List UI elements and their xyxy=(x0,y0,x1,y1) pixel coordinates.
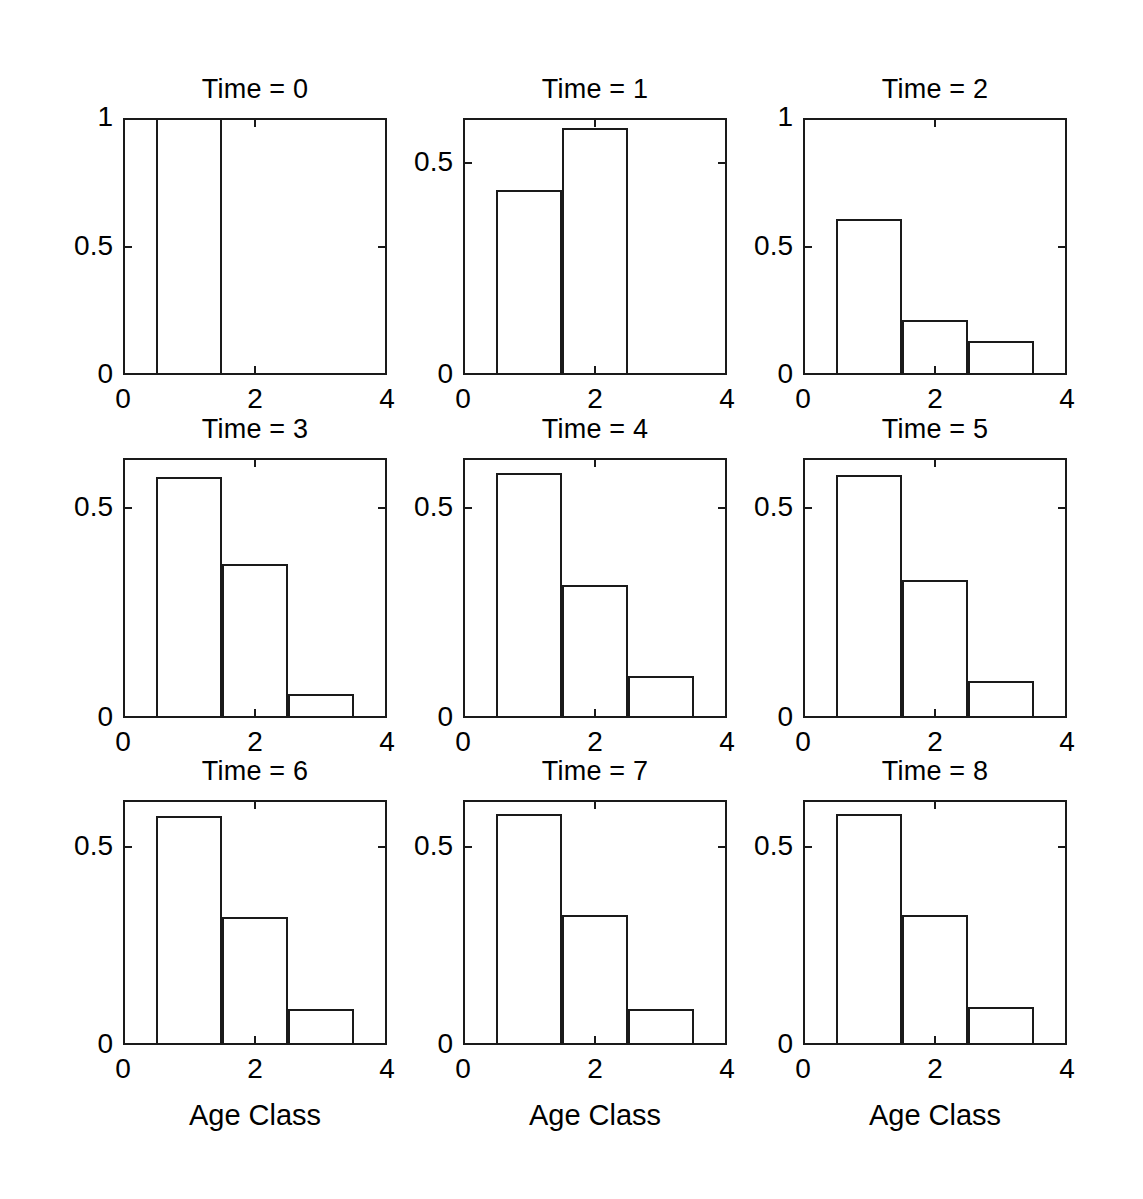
ytick-label-time-8-0: 0 xyxy=(673,1030,793,1058)
subplot-title-time-8: Time = 8 xyxy=(743,756,1127,786)
ytick-mark-right-time-8-1 xyxy=(1058,846,1067,848)
figure-canvas: Time = 000.51024FractionTime = 100.5024T… xyxy=(0,0,1143,1199)
ytick-mark-time-8-1 xyxy=(803,846,812,848)
subplot-time-8: Time = 800.5024Age Class xyxy=(0,0,1143,1199)
x-axis-label-time-8: Age Class xyxy=(743,1101,1127,1130)
bar-time-8-age-3 xyxy=(968,1007,1034,1045)
bar-time-8-age-1 xyxy=(836,814,902,1045)
xtick-label-time-8-0: 0 xyxy=(763,1055,843,1083)
xtick-label-time-8-2: 4 xyxy=(1027,1055,1107,1083)
ytick-label-time-8-1: 0.5 xyxy=(673,832,793,860)
xtick-label-time-8-1: 2 xyxy=(895,1055,975,1083)
bar-time-8-age-2 xyxy=(902,915,968,1045)
xtick-mark-top-time-8-1 xyxy=(934,800,936,809)
